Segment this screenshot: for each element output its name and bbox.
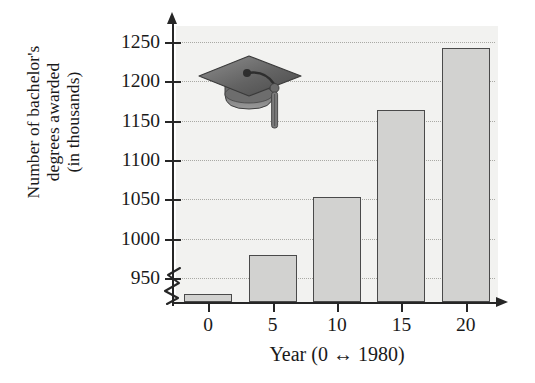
bar-year-15 xyxy=(377,110,425,302)
bar-chart-figure: Number of bachelor's degrees awarded (in… xyxy=(0,0,535,383)
x-tick-label-5: 5 xyxy=(253,315,293,335)
x-axis-line xyxy=(172,302,497,304)
y-tick-label-950: 950 xyxy=(100,268,160,288)
y-axis-title-line-1: Number of bachelor's xyxy=(23,46,43,199)
x-tick-label-10: 10 xyxy=(317,315,357,335)
gridline-1250 xyxy=(176,42,495,43)
y-tick-1100 xyxy=(165,160,181,162)
y-axis-arrowhead xyxy=(167,12,177,24)
y-tick-label-1100: 1100 xyxy=(100,150,160,170)
y-tick-1250 xyxy=(165,42,181,44)
y-tick-label-1050: 1050 xyxy=(100,189,160,209)
x-tick-5 xyxy=(273,303,275,312)
y-tick-label-1200: 1200 xyxy=(100,71,160,91)
y-tick-label-1000: 1000 xyxy=(100,229,160,249)
y-axis-line xyxy=(172,22,174,306)
x-tick-20 xyxy=(466,303,468,312)
x-axis-title: Year (0 ↔ 1980) xyxy=(176,343,498,366)
x-tick-label-15: 15 xyxy=(381,315,421,335)
bar-year-20 xyxy=(442,48,490,302)
y-tick-1150 xyxy=(165,121,181,123)
y-axis-title-line-3: (in thousands) xyxy=(63,71,83,172)
graduation-cap-icon xyxy=(197,48,309,140)
x-tick-label-0: 0 xyxy=(188,315,228,335)
y-tick-1200 xyxy=(165,81,181,83)
x-tick-15 xyxy=(401,303,403,312)
x-tick-0 xyxy=(208,303,210,312)
y-tick-1050 xyxy=(165,199,181,201)
bar-year-0 xyxy=(184,294,232,302)
y-tick-1000 xyxy=(165,239,181,241)
y-tick-label-1150: 1150 xyxy=(100,111,160,131)
y-tick-label-1250: 1250 xyxy=(100,32,160,52)
x-tick-label-20: 20 xyxy=(446,315,486,335)
x-axis-arrowhead xyxy=(496,297,508,307)
x-tick-10 xyxy=(337,303,339,312)
bar-year-5 xyxy=(249,255,297,302)
bar-year-10 xyxy=(313,197,361,302)
y-axis-title: Number of bachelor's degrees awarded (in… xyxy=(18,0,88,247)
y-axis-break-symbol xyxy=(158,266,184,306)
y-axis-title-line-2: degrees awarded xyxy=(43,63,63,182)
